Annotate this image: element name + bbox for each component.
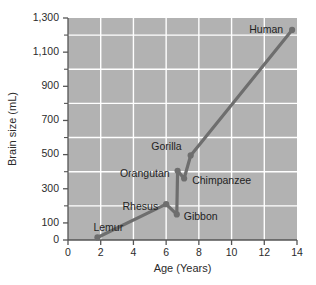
data-point-label: Lemur xyxy=(93,221,123,233)
data-point-marker[interactable] xyxy=(174,168,180,174)
x-axis-title: Age (Years) xyxy=(154,262,212,274)
data-point-label: Gibbon xyxy=(184,210,218,222)
data-point-marker[interactable] xyxy=(174,211,180,217)
brain-size-vs-age-chart: 01003005007009001,1001,300 02468101214 L… xyxy=(0,0,316,285)
data-point-label: Gorilla xyxy=(151,140,182,152)
data-point-label: Orangutan xyxy=(120,167,170,179)
y-axis-tick-labels: 01003005007009001,1001,300 xyxy=(33,11,59,245)
plot-background-group xyxy=(68,18,297,240)
y-axis-tick-label: 100 xyxy=(41,216,59,228)
data-point-marker[interactable] xyxy=(94,234,100,240)
y-axis-tick-label: 900 xyxy=(41,79,59,91)
y-axis-title: Brain size (mL) xyxy=(6,92,18,166)
data-point-marker[interactable] xyxy=(163,201,169,207)
data-point-label: Human xyxy=(249,23,283,35)
y-axis-tick-label: 700 xyxy=(41,113,59,125)
x-axis-tick-labels: 02468101214 xyxy=(65,246,303,258)
plot-area-background xyxy=(68,18,297,240)
x-axis-tick-label: 14 xyxy=(291,246,303,258)
y-axis-tick-label: 500 xyxy=(41,147,59,159)
x-axis-tick-label: 8 xyxy=(196,246,202,258)
y-axis-tick-label: 300 xyxy=(41,182,59,194)
y-axis-tick-label: 0 xyxy=(53,233,59,245)
data-point-marker[interactable] xyxy=(181,175,187,181)
y-axis-tick-label: 1,300 xyxy=(33,11,59,23)
x-axis-tick-label: 12 xyxy=(258,246,270,258)
data-point-label: Chimpanzee xyxy=(192,174,251,186)
x-axis-tick-label: 0 xyxy=(65,246,71,258)
data-point-marker[interactable] xyxy=(188,152,194,158)
x-axis-tick-label: 10 xyxy=(226,246,238,258)
x-axis-tick-label: 2 xyxy=(98,246,104,258)
data-point-label: Rhesus xyxy=(123,200,159,212)
y-axis-tick-label: 1,100 xyxy=(33,45,59,57)
chart-container: 01003005007009001,1001,300 02468101214 L… xyxy=(0,0,316,285)
x-axis-tick-label: 6 xyxy=(163,246,169,258)
x-axis-tick-label: 4 xyxy=(131,246,137,258)
data-point-marker[interactable] xyxy=(289,27,295,33)
